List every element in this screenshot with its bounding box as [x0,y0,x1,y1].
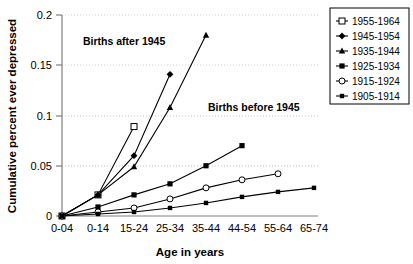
datapoint-1925-1934-2 [131,192,136,197]
y-tick-label-0.05: 0.05 [31,160,52,172]
legend-label-1905-1914: 1905-1914 [352,91,400,102]
y-tick-label-0.1: 0.1 [37,110,52,122]
annotation-births-after-1945: Births after 1945 [83,35,165,47]
datapoint-1915-1924-6 [275,171,281,177]
legend-marker-1905-1914 [340,94,344,98]
datapoint-1925-1934-4 [203,163,208,168]
series-line-1955-1964 [62,127,134,216]
x-tick-label-5: 44-54 [228,222,256,234]
legend-label-1955-1964: 1955-1964 [352,16,400,27]
legend-marker-1925-1934 [339,63,344,68]
y-tick-labels: 0.2 0.15 0.1 0.05 0 [31,9,52,222]
datapoint-1905-1914-6 [276,190,280,194]
series-line-1945-1954 [62,74,170,216]
legend-label-1935-1944: 1935-1944 [352,46,400,57]
chart-legend: 1955-19641945-19541935-19441925-19341915… [330,8,409,104]
x-tick-label-1: 0-14 [87,222,109,234]
legend-label-1915-1924: 1915-1924 [352,76,400,87]
datapoint-1935-1944-3 [167,104,173,110]
y-tick-label-0: 0 [46,210,52,222]
datapoint-1915-1924-4 [203,185,209,191]
datapoint-1905-1914-1 [96,212,100,216]
x-tick-label-0: 0-04 [51,222,73,234]
datapoint-1905-1914-3 [168,206,172,210]
datapoint-1905-1914-0 [60,214,64,218]
legend-marker-1915-1924 [339,78,345,84]
x-tick-label-4: 35-44 [192,222,220,234]
chart-figure: 0.2 0.15 0.1 0.05 0 0-04 0-14 15-24 25-3… [0,0,413,264]
datapoint-1905-1914-4 [204,201,208,205]
datapoint-1905-1914-5 [240,195,244,199]
datapoint-1955-1964-2 [131,124,137,130]
legend-marker-1955-1964 [339,18,345,24]
x-tick-label-2: 15-24 [120,222,148,234]
x-axis-title: Age in years [156,246,224,258]
x-tick-label-7: 65-74 [300,222,328,234]
x-tick-label-6: 55-64 [264,222,292,234]
datapoint-1925-1934-5 [239,143,244,148]
datapoint-1915-1924-3 [167,196,173,202]
series-layer [59,32,317,220]
series-line-1925-1934 [62,146,242,216]
y-axis-title: Cumulative percent ever depressed [6,19,18,213]
x-tick-label-3: 25-34 [156,222,184,234]
y-tick-label-0.2: 0.2 [37,9,52,21]
legend-label-1945-1954: 1945-1954 [352,31,400,42]
y-tick-label-0.15: 0.15 [31,59,52,71]
datapoint-1945-1954-3 [167,71,174,78]
legend-label-1925-1934: 1925-1934 [352,61,400,72]
datapoint-1915-1924-5 [239,177,245,183]
annotation-births-before-1945: Births before 1945 [208,101,300,113]
datapoint-1905-1914-7 [312,186,316,190]
datapoint-1905-1914-2 [132,210,136,214]
x-tick-labels: 0-04 0-14 15-24 25-34 35-44 44-54 55-64 … [51,222,328,234]
datapoint-1925-1934-3 [167,181,172,186]
datapoint-1935-1944-4 [203,32,209,38]
chart-svg: 0.2 0.15 0.1 0.05 0 0-04 0-14 15-24 25-3… [0,0,413,264]
